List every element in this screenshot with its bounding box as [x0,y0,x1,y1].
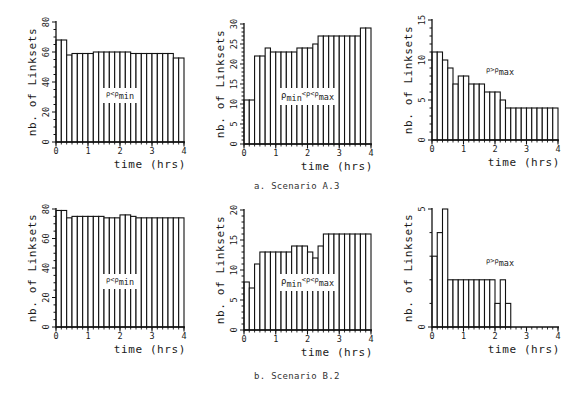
figure: 01234020406080nb. of Linksetstime (hrs)ρ… [0,0,583,396]
bar [542,108,547,140]
regime-label: ρ>ρmax [486,66,514,77]
bar [83,216,88,327]
bar [244,100,249,144]
regime-label: ρmin<ρ<ρmax [278,274,337,291]
bars [56,210,184,327]
y-tick-label: 40 [41,263,51,273]
regime-label-text: ρ>ρmax [486,66,514,77]
bar [255,56,260,144]
bar [244,282,249,330]
y-tick-label: 0 [417,137,427,142]
bar [67,55,72,142]
x-tick-label: 4 [555,331,560,341]
x-tick-label: 2 [305,334,310,344]
y-tick-label: 15 [417,15,427,25]
y-tick-label: 0 [229,141,239,146]
bar [506,303,511,327]
bar [437,233,442,327]
x-tick-label: 1 [461,331,466,341]
chart-A3-high: 01234051015nb. of Linksetstime (hrs)ρ>ρm… [402,15,561,169]
y-tick-label: 20 [41,292,51,302]
y-tick-label: 5 [417,206,427,211]
x-tick-label: 3 [149,331,154,341]
x-tick-label: 3 [524,331,529,341]
x-tick-label: 1 [85,331,90,341]
bar [437,52,442,140]
bar [168,54,173,143]
bar [313,258,318,330]
y-tick-label: 10 [229,265,239,275]
bar [506,108,511,140]
bar [152,218,157,327]
bar [464,280,469,327]
bar [56,40,61,142]
bar [500,100,505,140]
y-axis-label: nb. of Linksets [26,214,39,322]
bar [532,108,537,140]
x-axis-label: time (hrs) [301,346,373,359]
bars [244,28,371,144]
chart-grid: 01234020406080nb. of Linksetstime (hrs)ρ… [0,0,583,396]
bar [469,84,474,140]
bar [500,280,505,327]
x-tick-label: 2 [305,148,310,158]
bar [157,54,162,143]
bar [270,252,275,330]
x-tick-label: 2 [117,331,122,341]
x-axis-label: time (hrs) [488,343,560,356]
x-tick-label: 1 [273,334,278,344]
y-tick-label: 40 [41,77,51,87]
y-tick-label: 20 [229,59,239,69]
bar [490,280,495,327]
bar [527,108,532,140]
bar [99,216,104,327]
bar [495,303,500,327]
bar [366,234,371,330]
bar [516,108,521,140]
y-tick-label: 0 [41,324,51,329]
bar [464,76,469,140]
bar [553,108,558,140]
x-axis-label: time (hrs) [114,158,186,171]
y-axis-label: nb. of Linksets [214,30,227,138]
bar [355,36,360,144]
y-tick-label: 25 [229,39,239,49]
regime-label-text: ρ>ρmax [486,257,514,268]
bar [443,209,448,327]
y-tick-label: 5 [417,97,427,102]
chart-B2-high: 0123405nb. of Linksetstime (hrs)ρ>ρmax [402,206,561,356]
bar [458,280,463,327]
y-axis-label: nb. of Linksets [26,28,39,136]
regime-label: ρ<ρmin [103,274,137,289]
bar [485,92,490,140]
x-tick-label: 0 [53,331,58,341]
bar [72,216,77,327]
x-tick-label: 2 [492,331,497,341]
x-axis-label: time (hrs) [114,343,186,356]
bar [168,218,173,327]
x-tick-label: 3 [149,146,154,156]
regime-label: ρ<ρmin [103,88,137,103]
bar [485,280,490,327]
bar [157,218,162,327]
bar [67,218,72,327]
bar [104,218,109,327]
y-tick-label: 80 [41,17,51,27]
bar [479,280,484,327]
bar [249,100,254,144]
bar [366,28,371,144]
bar [360,28,365,144]
y-tick-label: 5 [229,297,239,302]
bar [163,54,168,143]
bar [448,280,453,327]
x-tick-label: 0 [241,148,246,158]
x-tick-label: 4 [181,331,186,341]
bar [479,84,484,140]
y-axis-label: nb. of Linksets [402,26,415,134]
x-tick-label: 3 [337,334,342,344]
bar [93,216,98,327]
bar [448,68,453,140]
bar [458,76,463,140]
bar [360,234,365,330]
bar [265,48,270,144]
